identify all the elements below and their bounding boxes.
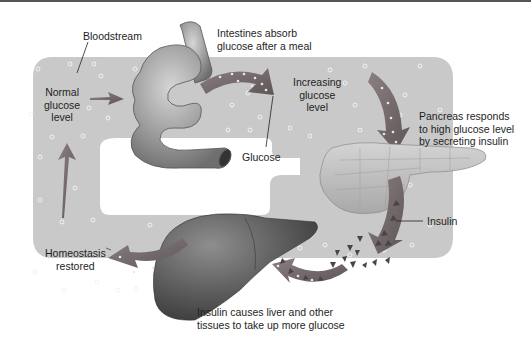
label-increasing-glucose: Increasing glucose level xyxy=(293,76,341,114)
label-intestines: Intestines absorb glucose after a meal xyxy=(217,27,312,52)
label-normal-glucose: Normal glucose level xyxy=(44,86,80,124)
label-bloodstream: Bloodstream xyxy=(83,30,142,43)
label-glucose: Glucose xyxy=(242,151,281,164)
label-liver-uptake: Insulin causes liver and other tissues t… xyxy=(197,306,345,331)
label-insulin: Insulin xyxy=(427,215,457,228)
label-pancreas: Pancreas responds to high glucose level … xyxy=(419,110,514,148)
label-homeostasis: Homeostasis restored xyxy=(45,247,106,272)
